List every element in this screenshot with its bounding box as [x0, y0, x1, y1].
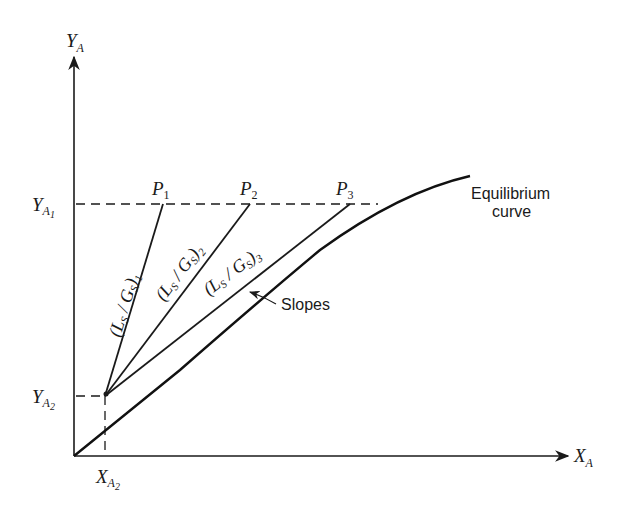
equilibrium-curve-label-line2: curve [492, 203, 531, 220]
slopes-label: Slopes [281, 296, 330, 313]
equilibrium-diagram: YA XA YA1 YA2 XA2 P1 P2 P3 (LS / GS)1 (L [0, 0, 629, 505]
point-p2-label: P2 [239, 178, 258, 202]
svg-text:(LS / GS)3: (LS / GS)3 [199, 243, 265, 300]
x-axis-label: XA [573, 445, 594, 470]
xa2-label: XA2 [95, 466, 120, 492]
y-axis-label: YA [66, 30, 85, 55]
ya2-point [104, 392, 109, 397]
svg-text:(LS / GS)1: (LS / GS)1 [105, 271, 145, 340]
slope-label-3: (LS / GS)3 [199, 243, 265, 300]
equilibrium-curve [74, 176, 470, 456]
point-p3-label: P3 [335, 178, 354, 202]
ya2-label: YA2 [32, 386, 55, 412]
point-p1-label: P1 [151, 178, 170, 202]
equilibrium-curve-label-line1: Equilibrium [471, 185, 550, 202]
ya1-label: YA1 [32, 194, 55, 220]
slope-label-1: (LS / GS)1 [105, 271, 145, 340]
